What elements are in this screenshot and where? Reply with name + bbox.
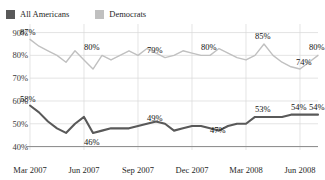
legend-item-democrats: Democrats: [95, 10, 146, 19]
data-label: 54%: [291, 103, 307, 112]
x-axis-tick: Sep 2007: [114, 166, 162, 175]
x-axis-tick: Mar 2008: [222, 166, 270, 175]
x-axis-tick: Jun 2008: [276, 166, 324, 175]
data-label: 53%: [255, 105, 271, 114]
y-axis-tick: 80%: [0, 51, 28, 60]
data-label: 80%: [201, 43, 217, 52]
x-axis-tick: Dec 2007: [168, 166, 216, 175]
legend-swatch-icon: [95, 10, 104, 19]
data-label: 47%: [210, 126, 226, 135]
y-axis-tick: 70%: [0, 74, 28, 83]
data-label: 87%: [20, 28, 36, 37]
data-label: 49%: [147, 114, 163, 123]
data-label: 80%: [84, 43, 100, 52]
plot-area: 90%80%70%60%50%40% 58%46%49%47%53%54%54%…: [0, 24, 321, 158]
data-label: 79%: [147, 46, 163, 55]
data-label: 74%: [296, 58, 312, 67]
x-axis-tick: Mar 2007: [6, 166, 54, 175]
y-axis-tick: 50%: [0, 120, 28, 129]
chart-legend: All Americans Democrats: [6, 5, 146, 23]
data-label: 54%: [309, 103, 325, 112]
series-line-democrats: [30, 39, 318, 69]
series-line-all-americans: [30, 106, 318, 133]
legend-item-all-americans: All Americans: [6, 10, 69, 19]
data-label: 46%: [84, 138, 100, 147]
data-label: 85%: [255, 32, 271, 41]
legend-label-democrats: Democrats: [109, 10, 146, 19]
legend-swatch-icon: [6, 10, 15, 19]
legend-label-all-americans: All Americans: [20, 10, 69, 19]
x-axis-tick: Jun 2007: [60, 166, 108, 175]
series-lines: [30, 39, 318, 132]
y-axis-tick: 40%: [0, 143, 28, 152]
data-label: 58%: [20, 95, 36, 104]
data-label: 80%: [309, 43, 325, 52]
